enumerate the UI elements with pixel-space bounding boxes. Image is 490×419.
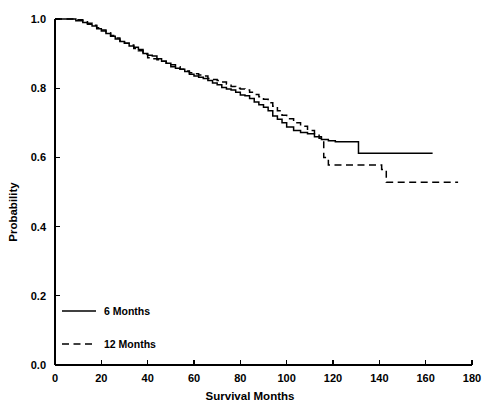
- legend-label-6-months: 6 Months: [104, 305, 150, 317]
- y-tick-label: 0.0: [31, 359, 46, 371]
- y-axis-tick-labels: 0.00.20.40.60.81.0: [31, 13, 47, 371]
- x-tick-label: 40: [142, 372, 154, 384]
- y-tick-label: 1.0: [31, 13, 46, 25]
- x-tick-label: 60: [188, 372, 200, 384]
- x-axis-title: Survival Months: [206, 390, 295, 402]
- legend-label-12-months: 12 Months: [104, 338, 156, 350]
- x-axis-tick-labels: 020406080100120140160180: [52, 372, 481, 384]
- y-tick-label: 0.8: [31, 82, 46, 94]
- survival-curve-chart: 0.00.20.40.60.81.0 020406080100120140160…: [0, 0, 490, 419]
- series-line-6-months: [55, 19, 433, 153]
- x-tick-label: 140: [370, 372, 388, 384]
- y-tick-label: 0.2: [31, 290, 46, 302]
- x-tick-label: 80: [234, 372, 246, 384]
- chart-legend: 6 Months 12 Months: [62, 305, 156, 350]
- x-axis-ticks: [55, 360, 472, 365]
- x-tick-label: 20: [95, 372, 107, 384]
- y-axis-title: Probability: [7, 182, 19, 242]
- plot-area: 0.00.20.40.60.81.0 020406080100120140160…: [0, 0, 490, 419]
- x-tick-label: 0: [52, 372, 58, 384]
- series-line-12-months: [55, 19, 458, 182]
- x-tick-label: 120: [324, 372, 342, 384]
- y-tick-label: 0.6: [31, 151, 46, 163]
- y-axis-ticks: [55, 19, 60, 365]
- x-tick-label: 100: [277, 372, 295, 384]
- y-tick-label: 0.4: [31, 221, 47, 233]
- x-tick-label: 160: [416, 372, 434, 384]
- x-tick-label: 180: [463, 372, 481, 384]
